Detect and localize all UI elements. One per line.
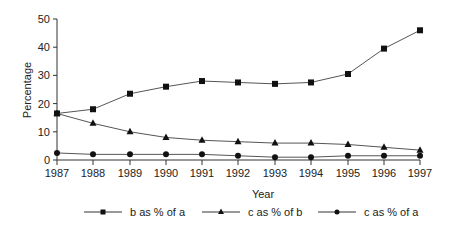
y-tick-label: 10 (38, 126, 50, 138)
x-tick-label: 1993 (263, 167, 287, 179)
legend-item: c as % of b (202, 206, 302, 218)
circle-marker (272, 154, 278, 160)
y-tick-label: 40 (38, 41, 50, 53)
x-axis-label: Year (252, 188, 275, 200)
series-square (54, 27, 423, 116)
x-tick-label: 1991 (190, 167, 214, 179)
x-tick-label: 1997 (408, 167, 432, 179)
circle-marker (163, 151, 169, 157)
circle-marker (417, 153, 423, 159)
x-tick-label: 1995 (336, 167, 360, 179)
circle-marker (235, 153, 241, 159)
circle-marker (90, 151, 96, 157)
legend-item: b as % of a (84, 206, 186, 218)
circle-marker (308, 154, 314, 160)
legend-label: c as % of a (364, 206, 419, 218)
square-marker (199, 78, 205, 84)
circle-marker (127, 151, 133, 157)
triangle-marker (308, 139, 315, 146)
square-marker (163, 84, 169, 90)
series-line (57, 113, 420, 150)
x-tick-label: 1996 (372, 167, 396, 179)
circle-marker (199, 151, 205, 157)
x-tick-label: 1994 (299, 167, 323, 179)
triangle-marker (235, 138, 242, 145)
square-marker (308, 79, 314, 85)
x-tick-label: 1987 (45, 167, 69, 179)
square-marker (381, 46, 387, 52)
y-tick-label: 0 (44, 154, 50, 166)
triangle-marker (199, 136, 206, 143)
y-tick-label: 30 (38, 69, 50, 81)
square-marker (272, 81, 278, 87)
circle-marker (345, 153, 351, 159)
legend-item: c as % of a (318, 206, 419, 218)
square-marker (345, 71, 351, 77)
square-marker (101, 210, 106, 215)
series-line (57, 30, 420, 113)
x-tick-label: 1992 (226, 167, 250, 179)
circle-marker (54, 150, 60, 156)
series-circle (54, 150, 423, 160)
legend: b as % of ac as % of bc as % of a (84, 206, 419, 218)
square-marker (417, 27, 423, 33)
triangle-marker (381, 143, 388, 150)
y-tick-label: 50 (38, 13, 50, 25)
circle-marker (335, 210, 340, 215)
triangle-marker (417, 146, 424, 153)
circle-marker (381, 153, 387, 159)
x-tick-label: 1989 (118, 167, 142, 179)
y-axis-label: Percentage (21, 62, 33, 118)
line-chart: 0102030405019871988198919901991199219931… (0, 0, 450, 231)
y-tick-label: 20 (38, 98, 50, 110)
square-marker (235, 79, 241, 85)
x-tick-label: 1988 (81, 167, 105, 179)
series-group (54, 27, 424, 160)
triangle-marker (218, 209, 224, 215)
series-triangle (54, 109, 424, 152)
square-marker (127, 91, 133, 97)
legend-label: c as % of b (248, 206, 302, 218)
legend-label: b as % of a (130, 206, 186, 218)
square-marker (90, 106, 96, 112)
x-tick-label: 1990 (154, 167, 178, 179)
triangle-marker (272, 139, 279, 146)
triangle-marker (345, 140, 352, 147)
